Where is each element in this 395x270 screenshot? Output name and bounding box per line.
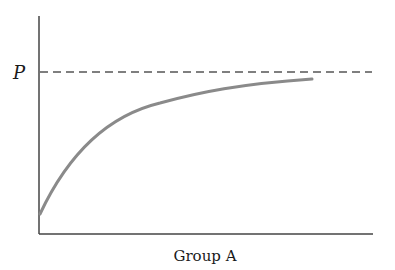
y-marker-label: P [12, 62, 26, 83]
saturation-curve [40, 79, 312, 214]
x-axis-label: Group A [173, 247, 236, 265]
chart: P Group A [0, 0, 395, 270]
